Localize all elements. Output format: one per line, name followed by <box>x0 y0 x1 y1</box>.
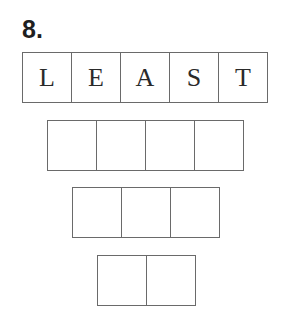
letter-box: E <box>71 52 121 103</box>
blank-letter-box[interactable] <box>194 120 244 171</box>
blank-letter-box[interactable] <box>121 187 171 238</box>
letter-box: S <box>169 52 219 103</box>
blank-letter-box[interactable] <box>47 120 97 171</box>
letter-box: A <box>120 52 170 103</box>
blank-letter-box[interactable] <box>146 255 196 306</box>
word-row-1: L E A S T <box>22 52 268 103</box>
word-row-4 <box>97 255 196 306</box>
problem-number: 8. <box>22 17 43 42</box>
blank-letter-box[interactable] <box>170 187 220 238</box>
letter-box: T <box>218 52 268 103</box>
blank-letter-box[interactable] <box>145 120 195 171</box>
word-row-2 <box>47 120 244 171</box>
blank-letter-box[interactable] <box>72 187 122 238</box>
blank-letter-box[interactable] <box>96 120 146 171</box>
blank-letter-box[interactable] <box>97 255 147 306</box>
word-row-3 <box>72 187 220 238</box>
letter-box: L <box>22 52 72 103</box>
